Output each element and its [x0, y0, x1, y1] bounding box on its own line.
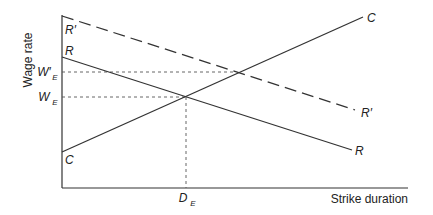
r-left-label: R [65, 44, 74, 58]
svg-text:W: W [38, 90, 51, 104]
r-curve [62, 57, 352, 150]
strike-bargaining-diagram: Wage rate Strike duration R′ R C C R′ R … [0, 0, 433, 215]
r-prime-right-label: R′ [361, 106, 373, 120]
c-curve [62, 17, 363, 152]
c-right-label: C [367, 11, 376, 25]
we-prime-label: W′ E [37, 65, 58, 82]
svg-text:E: E [52, 98, 58, 107]
we-label: W E [38, 90, 58, 107]
y-axis-label: Wage rate [21, 32, 35, 87]
svg-text:E: E [190, 199, 196, 208]
r-prime-left-label: R′ [65, 23, 77, 37]
svg-text:W′: W′ [37, 65, 51, 79]
de-label: D E [179, 191, 197, 208]
c-left-label: C [65, 153, 74, 167]
svg-text:E: E [52, 73, 58, 82]
x-axis-label: Strike duration [331, 192, 408, 206]
svg-text:D: D [179, 191, 188, 205]
r-right-label: R [355, 144, 364, 158]
r-prime-curve [62, 16, 355, 110]
